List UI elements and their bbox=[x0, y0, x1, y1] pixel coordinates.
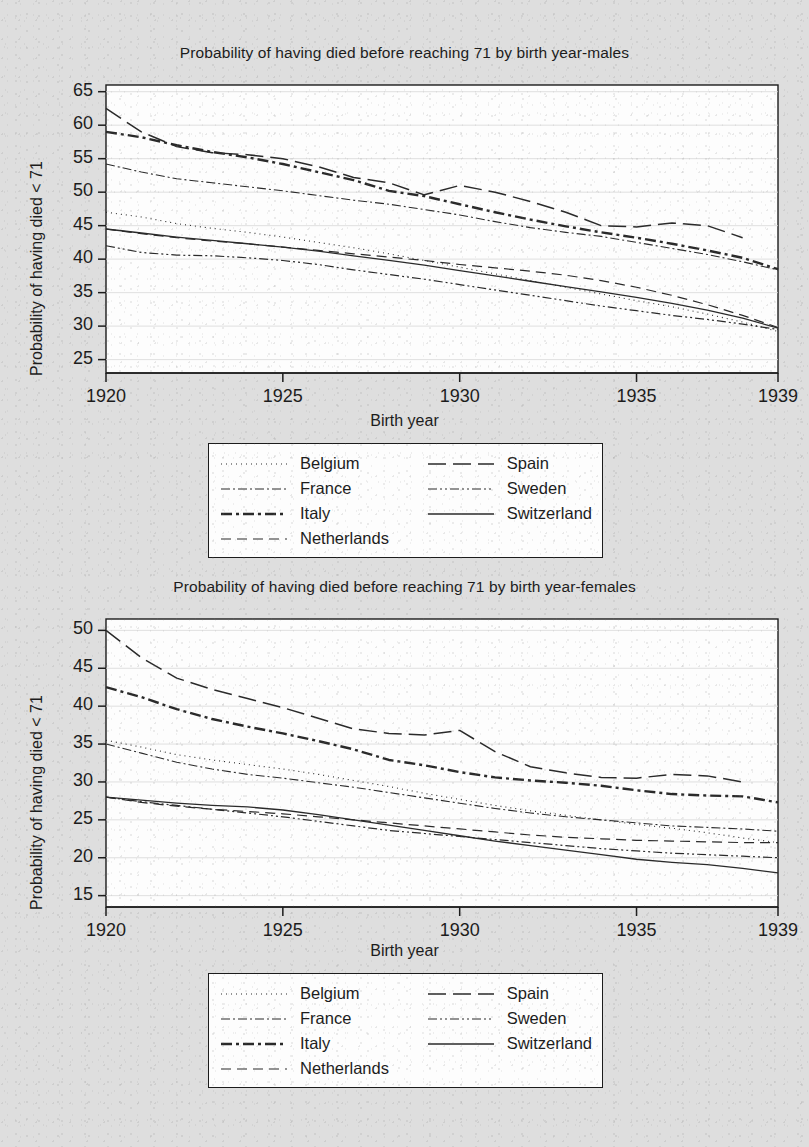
x-tick-label: 1935 bbox=[592, 386, 682, 407]
legend-line-swatch-italy bbox=[221, 1037, 287, 1051]
legend-label: France bbox=[300, 1009, 351, 1028]
plot-area-females bbox=[105, 618, 781, 910]
y-tick-label: 40 bbox=[49, 247, 93, 268]
legend-line-swatch-italy bbox=[221, 507, 287, 521]
legend-item-sweden: Sweden bbox=[428, 476, 592, 501]
y-tick-label: 35 bbox=[49, 281, 93, 302]
legend-line-swatch-netherlands bbox=[221, 1062, 287, 1076]
legend-column-1: BelgiumFranceItalyNetherlands bbox=[221, 981, 428, 1081]
legend-label: Spain bbox=[507, 984, 549, 1003]
y-tick-label: 55 bbox=[49, 147, 93, 168]
legend-line-swatch-switzerland bbox=[428, 1037, 494, 1051]
legend-line-swatch-spain bbox=[428, 987, 494, 1001]
x-tick-label: 1935 bbox=[592, 920, 682, 941]
legend-line-swatch-belgium bbox=[221, 457, 287, 471]
x-tick-label: 1920 bbox=[61, 920, 151, 941]
chart-title-females: Probability of having died before reachi… bbox=[0, 578, 809, 596]
legend-line-swatch-switzerland bbox=[428, 507, 494, 521]
chart-panel-females: Probability of having died before reachi… bbox=[0, 560, 809, 1147]
legend-item-netherlands: Netherlands bbox=[221, 1056, 428, 1081]
legend-label: Netherlands bbox=[300, 529, 389, 548]
y-tick-label: 45 bbox=[49, 656, 93, 677]
x-tick-label: 1939 bbox=[733, 920, 809, 941]
y-tick-label: 30 bbox=[49, 770, 93, 791]
plot-area-males bbox=[105, 84, 781, 376]
legend-line-swatch-spain bbox=[428, 457, 494, 471]
legend-label: Italy bbox=[300, 504, 330, 523]
legend-label: Belgium bbox=[300, 984, 360, 1003]
legend-label: France bbox=[300, 479, 351, 498]
x-tick-label: 1925 bbox=[238, 386, 328, 407]
x-tick-label: 1939 bbox=[733, 386, 809, 407]
y-axis-label-females: Probability of having died < 71 bbox=[28, 695, 46, 910]
legend-item-france: France bbox=[221, 1006, 428, 1031]
legend-label: Switzerland bbox=[507, 504, 592, 523]
legend-item-italy: Italy bbox=[221, 1031, 428, 1056]
legend-line-swatch-france bbox=[221, 1012, 287, 1026]
legend-line-swatch-sweden bbox=[428, 482, 494, 496]
legend-line-swatch-sweden bbox=[428, 1012, 494, 1026]
legend-item-switzerland: Switzerland bbox=[428, 501, 592, 526]
legend-item-spain: Spain bbox=[428, 451, 592, 476]
x-tick-label: 1925 bbox=[238, 920, 328, 941]
x-tick-label: 1930 bbox=[415, 386, 505, 407]
legend-label: Netherlands bbox=[300, 1059, 389, 1078]
legend-item-belgium: Belgium bbox=[221, 451, 428, 476]
legend-label: Belgium bbox=[300, 454, 360, 473]
x-axis-label-females: Birth year bbox=[0, 942, 809, 960]
legend-label: Switzerland bbox=[507, 1034, 592, 1053]
legend-column-2: SpainSwedenSwitzerland bbox=[428, 451, 592, 551]
y-tick-label: 50 bbox=[49, 180, 93, 201]
x-tick-label: 1920 bbox=[61, 386, 151, 407]
legend-item-italy: Italy bbox=[221, 501, 428, 526]
legend-item-france: France bbox=[221, 476, 428, 501]
legend-label: Spain bbox=[507, 454, 549, 473]
legend-line-swatch-belgium bbox=[221, 987, 287, 1001]
y-axis-label-males: Probability of having died < 71 bbox=[28, 161, 46, 376]
legend-item-belgium: Belgium bbox=[221, 981, 428, 1006]
legend-column-1: BelgiumFranceItalyNetherlands bbox=[221, 451, 428, 551]
y-tick-label: 65 bbox=[49, 80, 93, 101]
chart-legend-females: BelgiumFranceItalyNetherlandsSpainSweden… bbox=[208, 973, 603, 1088]
chart-title-males: Probability of having died before reachi… bbox=[0, 44, 809, 62]
y-tick-label: 25 bbox=[49, 348, 93, 369]
y-tick-label: 50 bbox=[49, 618, 93, 639]
y-tick-label: 25 bbox=[49, 808, 93, 829]
legend-label: Sweden bbox=[507, 1009, 567, 1028]
x-tick-label: 1930 bbox=[415, 920, 505, 941]
legend-item-spain: Spain bbox=[428, 981, 592, 1006]
y-tick-label: 60 bbox=[49, 113, 93, 134]
legend-label: Italy bbox=[300, 1034, 330, 1053]
y-tick-label: 30 bbox=[49, 314, 93, 335]
legend-item-netherlands: Netherlands bbox=[221, 526, 428, 551]
legend-label: Sweden bbox=[507, 479, 567, 498]
chart-panel-males: Probability of having died before reachi… bbox=[0, 0, 809, 560]
legend-column-2: SpainSwedenSwitzerland bbox=[428, 981, 592, 1081]
y-tick-label: 45 bbox=[49, 214, 93, 235]
legend-line-swatch-france bbox=[221, 482, 287, 496]
legend-item-sweden: Sweden bbox=[428, 1006, 592, 1031]
chart-legend-males: BelgiumFranceItalyNetherlandsSpainSweden… bbox=[208, 443, 603, 558]
y-tick-label: 40 bbox=[49, 694, 93, 715]
y-tick-label: 15 bbox=[49, 884, 93, 905]
y-tick-label: 20 bbox=[49, 846, 93, 867]
legend-item-switzerland: Switzerland bbox=[428, 1031, 592, 1056]
x-axis-label-males: Birth year bbox=[0, 412, 809, 430]
y-tick-label: 35 bbox=[49, 732, 93, 753]
legend-line-swatch-netherlands bbox=[221, 532, 287, 546]
